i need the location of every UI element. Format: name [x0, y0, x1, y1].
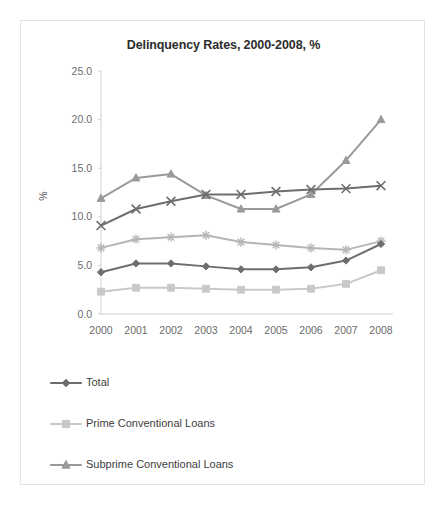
data-point-marker	[377, 115, 385, 122]
y-axis-tick-label: 15.0	[72, 162, 93, 174]
y-axis-tick-label: 10.0	[72, 210, 93, 222]
data-point-marker	[273, 286, 280, 293]
legend-label: Prime Conventional Loans	[86, 417, 216, 429]
data-point-marker	[166, 233, 175, 242]
legend-marker-diamond	[62, 379, 70, 387]
data-point-marker	[203, 285, 210, 292]
data-series-subprime-conventional-loans	[97, 115, 385, 212]
y-axis-tick-label: 20.0	[72, 113, 93, 125]
y-axis-tick-labels: 0.05.010.015.020.025.0	[72, 65, 101, 320]
x-axis-tick-label: 2006	[299, 324, 323, 336]
data-point-marker	[272, 266, 279, 273]
data-series-layer	[96, 115, 385, 295]
x-axis-tick-label: 2007	[334, 324, 358, 336]
legend-label: Subprime Conventional Loans	[86, 458, 234, 470]
data-point-marker	[237, 266, 244, 273]
data-point-marker	[308, 285, 315, 292]
data-point-marker	[342, 257, 349, 264]
y-axis-title: %	[37, 191, 49, 200]
data-point-marker	[167, 260, 174, 267]
x-axis-tick-label: 2005	[264, 324, 288, 336]
legend-item[interactable]: Total	[51, 376, 109, 388]
data-point-marker	[271, 240, 280, 249]
chart-plot-svg: 0.05.010.015.020.025.0 20002001200220032…	[21, 21, 426, 486]
data-point-marker	[96, 243, 105, 252]
data-point-marker	[168, 284, 175, 291]
x-axis-tick-label: 2000	[89, 324, 113, 336]
chart-legend: TotalPrime Conventional LoansSubprime Co…	[51, 376, 234, 470]
y-axis-tick-label: 25.0	[72, 65, 93, 77]
x-axis-tick-label: 2002	[159, 324, 183, 336]
data-point-marker	[131, 235, 140, 244]
data-point-marker	[132, 260, 139, 267]
data-point-marker	[307, 264, 314, 271]
data-point-marker	[201, 231, 210, 240]
data-point-marker	[378, 267, 385, 274]
x-axis-tick-label: 2003	[194, 324, 218, 336]
chart-frame: Delinquency Rates, 2000-2008, % 0.05.010…	[20, 20, 425, 485]
data-point-marker	[306, 243, 315, 252]
x-axis-tick-label: 2004	[229, 324, 253, 336]
y-axis-tick-label: 0.0	[77, 308, 92, 320]
data-point-marker	[202, 263, 209, 270]
legend-item[interactable]: Subprime Conventional Loans	[51, 458, 234, 470]
legend-item[interactable]: Prime Conventional Loans	[51, 417, 216, 429]
data-point-marker	[98, 288, 105, 295]
data-point-marker	[343, 280, 350, 287]
legend-label: Total	[86, 376, 109, 388]
x-axis-tick-label: 2001	[124, 324, 148, 336]
data-point-marker	[97, 269, 104, 276]
x-axis-tick-labels: 200020012002200320042005200620072008	[89, 324, 393, 336]
data-point-marker	[133, 284, 140, 291]
y-axis-tick-label: 5.0	[77, 259, 92, 271]
data-point-marker	[238, 286, 245, 293]
data-point-marker	[341, 245, 350, 254]
x-axis-tick-label: 2008	[369, 324, 393, 336]
data-series-series-star	[96, 231, 385, 255]
data-point-marker	[236, 237, 245, 246]
legend-marker-square	[62, 420, 69, 427]
